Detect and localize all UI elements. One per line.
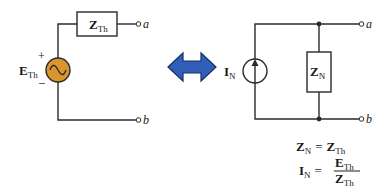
- thevenin-wire-bottom: [58, 82, 136, 120]
- equation-in-lhs: IN=: [299, 163, 322, 180]
- thevenin-wire-top-left: [58, 24, 77, 58]
- equation-in-numerator: ETh: [335, 155, 354, 172]
- thevenin-terminal-a: [136, 22, 141, 27]
- thevenin-terminal-b-label: b: [143, 113, 149, 127]
- equations: ZN=ZTh IN= ETh ZTh: [296, 139, 360, 186]
- thevenin-circuit: ZTh + − ETh a b: [19, 12, 149, 127]
- minus-sign: −: [38, 76, 45, 91]
- norton-terminal-b: [359, 117, 364, 122]
- equation-zn-equals-zth: ZN=ZTh: [296, 139, 346, 156]
- norton-terminal-b-label: b: [366, 112, 372, 126]
- circuit-diagram: ZTh + − ETh a b ZN IN a b: [0, 0, 391, 186]
- equivalence-double-arrow-icon: [168, 53, 216, 81]
- plus-sign: +: [38, 49, 45, 63]
- thevenin-source-label: ETh: [19, 63, 38, 80]
- equation-in-denominator: ZTh: [335, 171, 354, 186]
- norton-node-top: [317, 22, 322, 27]
- norton-node-bottom: [317, 117, 322, 122]
- norton-terminal-a: [359, 22, 364, 27]
- thevenin-terminal-b: [136, 118, 141, 123]
- thevenin-terminal-a-label: a: [143, 17, 149, 31]
- norton-terminal-a-label: a: [366, 17, 372, 31]
- norton-circuit: ZN IN a b: [224, 17, 372, 126]
- norton-current-label: IN: [224, 64, 236, 81]
